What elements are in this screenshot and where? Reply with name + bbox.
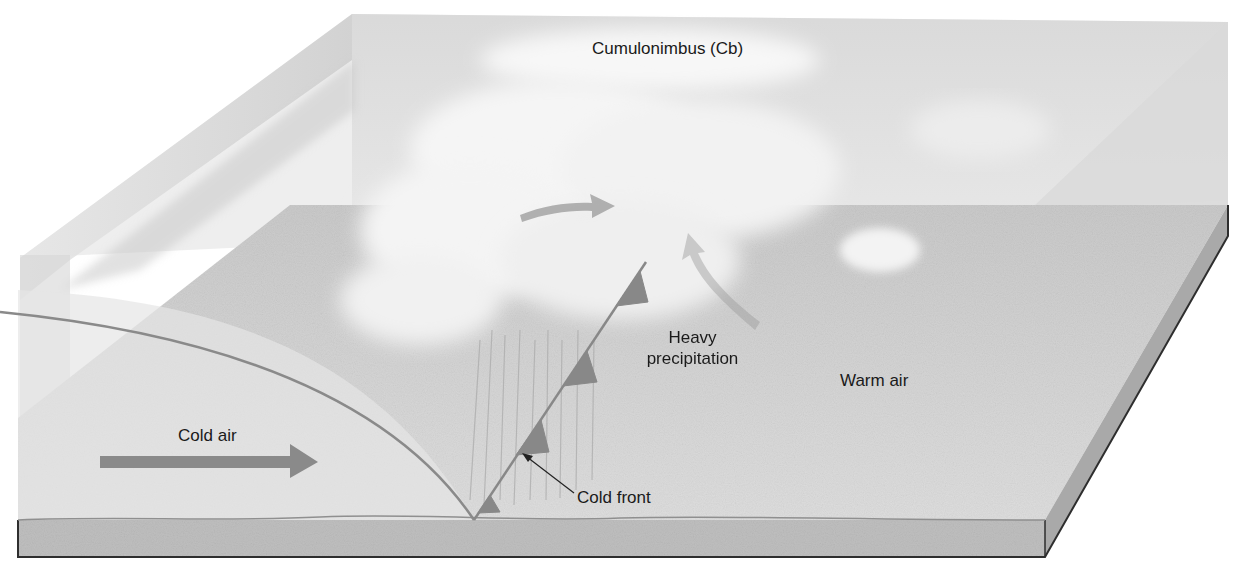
- ground-front-face: [18, 520, 1045, 557]
- cold-front-label: Cold front: [577, 487, 651, 508]
- heavy-precipitation-label: Heavy precipitation: [630, 327, 755, 369]
- heavy-precipitation-line1: Heavy: [630, 327, 755, 348]
- heavy-precipitation-line2: precipitation: [630, 348, 755, 369]
- cumulonimbus-label: Cumulonimbus (Cb): [592, 38, 743, 59]
- warm-air-label: Warm air: [840, 370, 908, 391]
- cold-air-label: Cold air: [178, 425, 237, 446]
